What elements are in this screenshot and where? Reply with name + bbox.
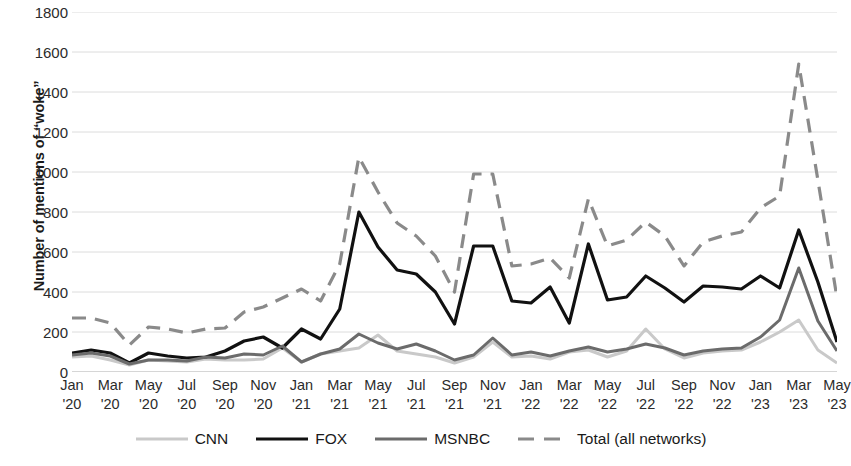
x-axis-tick-label: Sep'20: [212, 376, 238, 413]
x-axis-tick-label: May'22: [594, 376, 621, 413]
x-tick-month: Nov: [480, 376, 506, 395]
y-axis-tick-label: 400: [43, 284, 68, 301]
x-axis-tick-label: Sep'22: [671, 376, 697, 413]
y-axis-tick-label: 1400: [35, 84, 68, 101]
y-axis-tick-labels: 180016001400120010008006004002000: [20, 0, 68, 384]
legend-label: Total (all networks): [577, 430, 706, 448]
x-tick-year: '22: [671, 395, 697, 414]
x-tick-year: '23: [749, 395, 772, 414]
legend-item-cnn[interactable]: CNN: [136, 430, 229, 448]
y-axis-tick-label: 800: [43, 204, 68, 221]
series-line-total-all-networks: [72, 64, 837, 345]
x-tick-year: '22: [519, 395, 542, 414]
x-tick-year: '21: [327, 395, 352, 414]
x-axis-tick-label: Jul'21: [407, 376, 426, 413]
legend-item-msnbc[interactable]: MSNBC: [375, 430, 490, 448]
x-tick-year: '20: [135, 395, 162, 414]
legend-label: CNN: [195, 430, 229, 448]
x-axis-tick-label: Nov'21: [480, 376, 506, 413]
x-tick-year: '21: [290, 395, 313, 414]
chart-svg: [72, 12, 837, 372]
x-tick-month: Sep: [671, 376, 697, 395]
x-axis-tick-label: Nov'20: [250, 376, 276, 413]
x-tick-year: '22: [709, 395, 735, 414]
x-axis-tick-label: Sep'21: [442, 376, 468, 413]
x-tick-month: Jan: [290, 376, 313, 395]
x-axis-tick-label: May'21: [364, 376, 391, 413]
y-axis-tick-label: 1200: [35, 124, 68, 141]
x-tick-month: May: [823, 376, 850, 395]
y-axis-tick-label: 200: [43, 324, 68, 341]
x-axis-tick-label: Jan'22: [519, 376, 542, 413]
x-tick-year: '21: [442, 395, 468, 414]
x-tick-year: '21: [407, 395, 426, 414]
x-tick-year: '22: [557, 395, 582, 414]
x-axis-tick-label: Jan'20: [60, 376, 83, 413]
x-tick-year: '22: [636, 395, 655, 414]
x-tick-month: Jul: [177, 376, 196, 395]
legend-swatch: [256, 433, 308, 445]
x-tick-month: May: [364, 376, 391, 395]
x-tick-year: '21: [364, 395, 391, 414]
legend-swatch: [136, 433, 188, 445]
y-axis-tick-label: 600: [43, 244, 68, 261]
x-tick-month: Nov: [250, 376, 276, 395]
legend-label: FOX: [315, 430, 347, 448]
x-tick-year: '23: [786, 395, 811, 414]
x-axis-tick-label: Jul'22: [636, 376, 655, 413]
legend-label: MSNBC: [434, 430, 490, 448]
x-axis-tick-label: Nov'22: [709, 376, 735, 413]
x-tick-month: Mar: [98, 376, 123, 395]
x-tick-year: '20: [60, 395, 83, 414]
x-tick-year: '20: [250, 395, 276, 414]
plot-area: [72, 12, 837, 372]
x-axis-tick-label: Mar'23: [786, 376, 811, 413]
x-tick-month: Jan: [749, 376, 772, 395]
x-axis-tick-label: Mar'20: [98, 376, 123, 413]
x-tick-month: Sep: [442, 376, 468, 395]
x-tick-month: Jan: [519, 376, 542, 395]
x-tick-month: Mar: [327, 376, 352, 395]
x-tick-year: '21: [480, 395, 506, 414]
x-axis-tick-label: Mar'22: [557, 376, 582, 413]
x-axis-tick-label: May'20: [135, 376, 162, 413]
x-tick-month: May: [594, 376, 621, 395]
x-tick-year: '20: [98, 395, 123, 414]
x-axis-tick-labels: Jan'20Mar'20May'20Jul'20Sep'20Nov'20Jan'…: [72, 376, 837, 424]
x-tick-month: May: [135, 376, 162, 395]
legend-item-total-all-networks[interactable]: Total (all networks): [518, 430, 706, 448]
legend-swatch: [518, 433, 570, 445]
chart-legend: CNNFOXMSNBCTotal (all networks): [0, 430, 842, 448]
y-axis-tick-label: 1600: [35, 44, 68, 61]
series-lines: [72, 64, 837, 365]
x-tick-month: Jan: [60, 376, 83, 395]
x-tick-month: Mar: [557, 376, 582, 395]
x-axis-tick-label: Jan'23: [749, 376, 772, 413]
y-axis-tick-label: 1800: [35, 4, 68, 21]
x-tick-year: '20: [177, 395, 196, 414]
y-axis-tick-label: 1000: [35, 164, 68, 181]
legend-item-fox[interactable]: FOX: [256, 430, 347, 448]
x-axis-tick-label: Jan'21: [290, 376, 313, 413]
x-axis-tick-label: Mar'21: [327, 376, 352, 413]
x-tick-year: '22: [594, 395, 621, 414]
legend-swatch: [375, 433, 427, 445]
x-tick-month: Mar: [786, 376, 811, 395]
x-tick-month: Jul: [407, 376, 426, 395]
x-tick-year: '23: [823, 395, 850, 414]
x-tick-month: Sep: [212, 376, 238, 395]
x-tick-month: Nov: [709, 376, 735, 395]
x-tick-month: Jul: [636, 376, 655, 395]
x-axis-tick-label: May'23: [823, 376, 850, 413]
x-tick-year: '20: [212, 395, 238, 414]
x-axis-tick-label: Jul'20: [177, 376, 196, 413]
